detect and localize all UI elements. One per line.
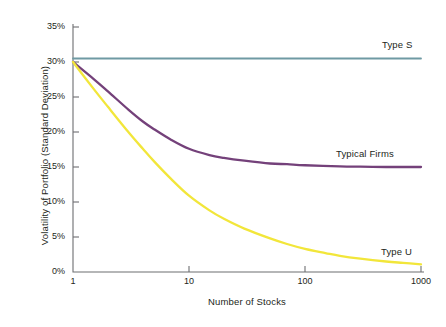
x-tick-label-100: 100 [282, 276, 328, 286]
y-tick-label-30: 30% [31, 56, 65, 66]
y-tick-label-0: 0% [31, 266, 65, 276]
x-axis-title: Number of Stocks [73, 296, 421, 307]
y-tick-label-10: 10% [31, 196, 65, 206]
series-label-type-s: Type S [382, 39, 412, 50]
y-tick-label-5: 5% [31, 231, 65, 241]
x-tick-label-1: 1 [50, 276, 96, 286]
series-label-typical-firms: Typical Firms [336, 148, 394, 159]
y-tick-label-25: 25% [31, 91, 65, 101]
chart-series-group [73, 59, 421, 265]
x-tick-label-1000: 1000 [398, 276, 444, 286]
x-axis-tick-marks [189, 266, 421, 272]
series-label-type-u: Type U [381, 246, 412, 257]
volatility-chart-figure: Volatility of Portfolio (Standard Deviat… [0, 0, 446, 327]
y-tick-label-15: 15% [31, 161, 65, 171]
series-line-type-u [73, 62, 421, 264]
y-tick-label-20: 20% [31, 126, 65, 136]
x-tick-label-10: 10 [166, 276, 212, 286]
y-tick-label-35: 35% [31, 21, 65, 31]
